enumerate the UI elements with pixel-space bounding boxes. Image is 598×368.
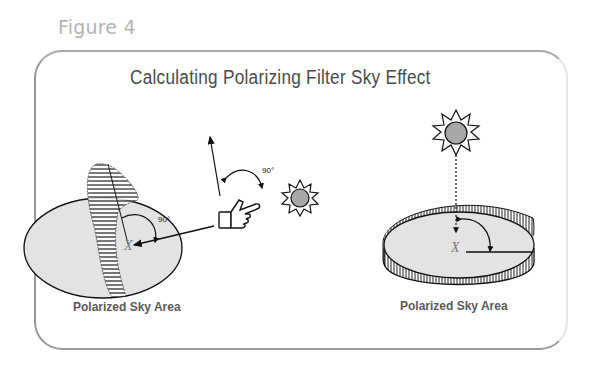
left-diagram: 90° X 90° — [24, 137, 318, 298]
right-diagram: X — [383, 110, 534, 285]
caption-left: Polarized Sky Area — [73, 300, 181, 314]
arrow-up — [210, 137, 220, 196]
point-x-right: X — [450, 240, 460, 255]
pointing-hand-icon — [219, 200, 260, 228]
sun-icon-right — [433, 110, 479, 155]
angle-arc-right — [226, 170, 262, 188]
caption-right: Polarized Sky Area — [400, 299, 508, 313]
angle-label-left-inner: 90° — [158, 215, 170, 224]
angle-label-left-outer: 90° — [262, 166, 274, 175]
sun-icon-left — [282, 180, 318, 216]
point-x-left: X — [123, 238, 133, 253]
